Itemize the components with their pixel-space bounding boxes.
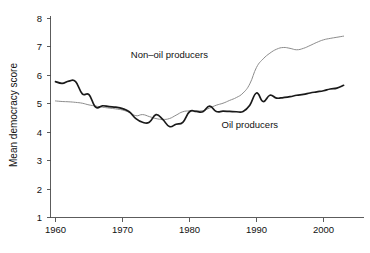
series-annotation-oil-producers: Oil producers	[222, 119, 279, 130]
x-tick-label: 1990	[246, 224, 267, 235]
y-tick-label: 6	[37, 70, 42, 81]
x-tick-label: 1970	[112, 224, 133, 235]
x-tick-label: 1960	[45, 224, 66, 235]
y-tick-label: 8	[37, 13, 42, 24]
y-tick-label: 2	[37, 184, 42, 195]
y-tick-label: 4	[37, 127, 42, 138]
series-annotation-non-oil-producers: Non–oil producers	[131, 49, 208, 60]
series-line-oil-producers	[56, 80, 344, 127]
chart-figure: Mean democracy score 1 2 3 4 5 6 7 8	[0, 0, 370, 253]
y-tick-label: 1	[37, 212, 42, 223]
y-tick-label: 3	[37, 155, 42, 166]
democracy-score-line-chart: Mean democracy score 1 2 3 4 5 6 7 8	[0, 0, 370, 253]
y-tick-label: 7	[37, 41, 42, 52]
y-axis-label: Mean democracy score	[8, 63, 19, 167]
x-tick-label: 1980	[179, 224, 200, 235]
y-tick-label: 5	[37, 98, 42, 109]
y-axis-ticks: 1 2 3 4 5 6 7 8	[37, 13, 51, 223]
x-axis-ticks: 1960 1970 1980 1990 2000	[45, 218, 334, 236]
x-tick-label: 2000	[313, 224, 334, 235]
